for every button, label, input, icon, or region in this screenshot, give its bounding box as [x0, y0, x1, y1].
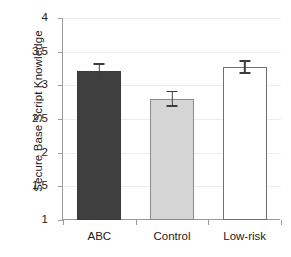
y-tick-label: 2	[8, 147, 48, 159]
bar-group[interactable]	[150, 18, 194, 220]
bars-layer	[63, 18, 281, 220]
bar-group[interactable]	[77, 18, 121, 220]
error-bar	[167, 91, 178, 107]
y-tick-label: 1.5	[8, 181, 48, 193]
bar-abc[interactable]	[77, 71, 121, 220]
bar-control[interactable]	[150, 99, 194, 220]
error-bar	[94, 63, 105, 79]
bar-chart: Secure Base Script Knowledge 11.522.533.…	[0, 0, 291, 257]
x-tick	[281, 220, 282, 225]
plot-area: 11.522.533.54 ABCControlLow-risk	[62, 18, 280, 220]
x-tick	[208, 220, 209, 225]
y-tick-label: 2.5	[8, 113, 48, 125]
bar-low-risk[interactable]	[223, 67, 267, 220]
y-tick-label: 3.5	[8, 46, 48, 58]
error-bar-cap-bottom	[239, 72, 250, 73]
x-tick	[136, 220, 137, 225]
bar-group[interactable]	[223, 18, 267, 220]
error-bar-cap-top	[167, 91, 178, 92]
error-bar-cap-bottom	[167, 105, 178, 106]
error-bar-cap-top	[94, 63, 105, 64]
y-tick-label: 1	[8, 214, 48, 226]
error-bar-stem	[99, 63, 100, 79]
y-tick-label: 4	[8, 12, 48, 24]
error-bar-cap-bottom	[94, 78, 105, 79]
x-tick-label-abc: ABC	[88, 230, 112, 242]
x-tick-label-control: Control	[153, 230, 190, 242]
error-bar-stem	[171, 91, 172, 107]
error-bar-cap-top	[239, 60, 250, 61]
x-tick	[63, 220, 64, 225]
error-bar	[239, 60, 250, 73]
x-tick-label-low-risk: Low-risk	[223, 230, 266, 242]
y-tick-label: 3	[8, 80, 48, 92]
